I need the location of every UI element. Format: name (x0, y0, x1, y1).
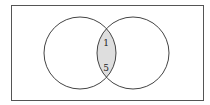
venn-diagram: 1 5 (0, 0, 210, 105)
intersection-value-2: 5 (103, 63, 109, 73)
intersection-value-1: 1 (103, 38, 109, 48)
